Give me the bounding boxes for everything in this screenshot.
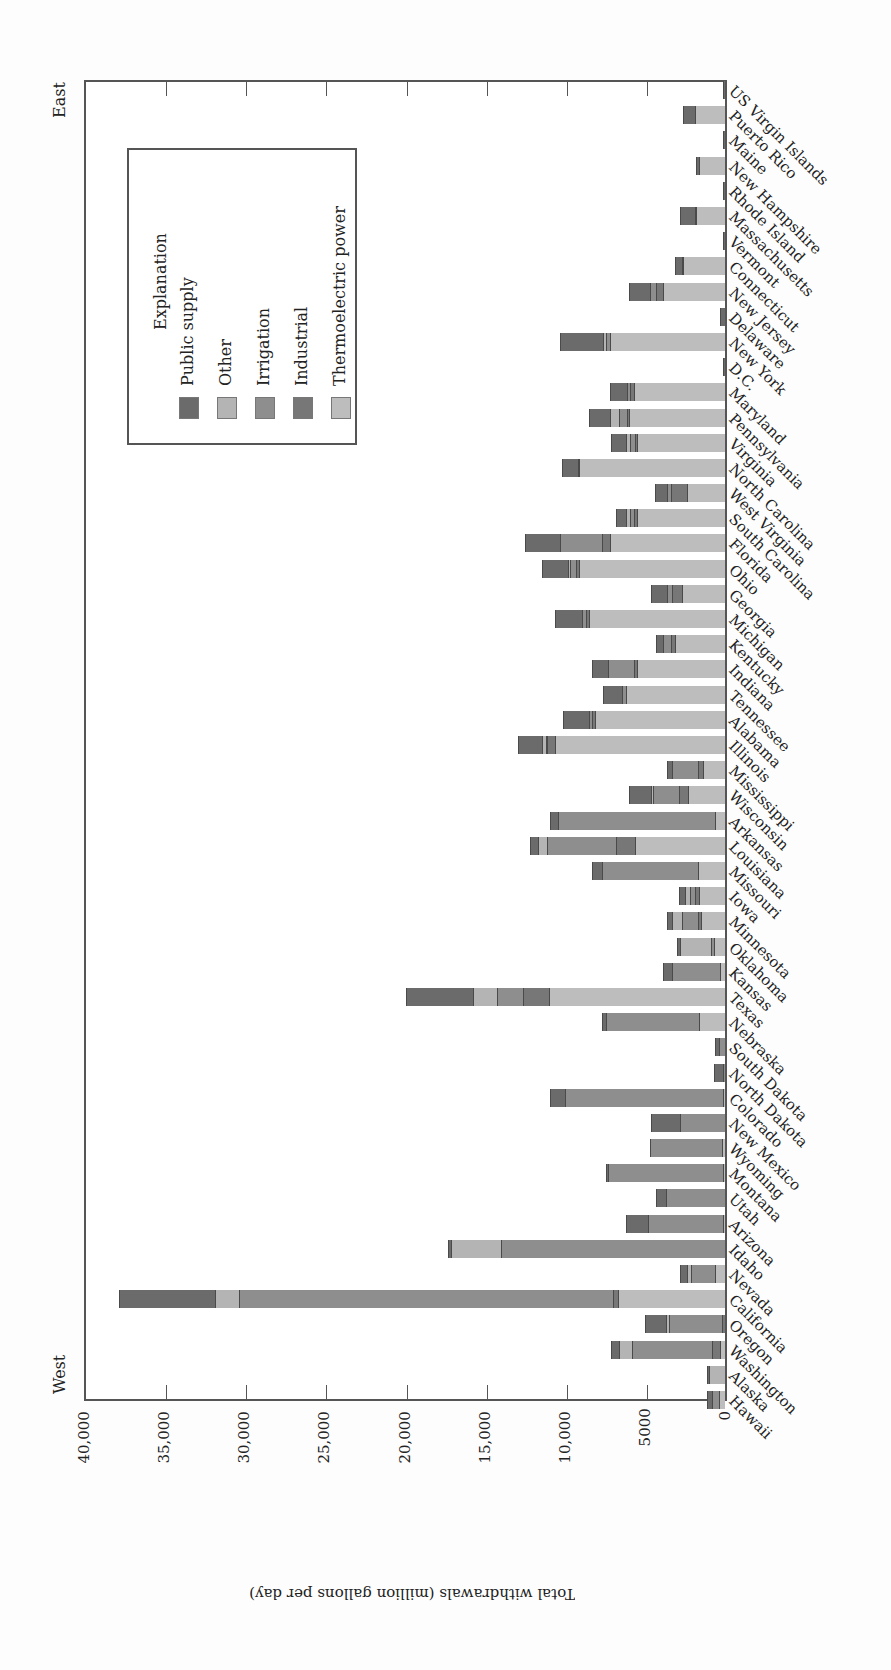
tick-mark (567, 1385, 568, 1399)
bar-segment-public-supply (563, 711, 589, 729)
bar-segment-public-supply (550, 1089, 564, 1107)
bar-segment-thermoelectric-power (723, 1089, 725, 1107)
tick-mark (647, 82, 648, 96)
tick-mark (246, 1385, 247, 1399)
bar-segment-public-supply (550, 812, 558, 830)
bar-segment-public-supply (406, 988, 473, 1006)
bar-virginia (611, 434, 725, 452)
bar-segment-irrigation (723, 1064, 725, 1082)
bar-segment-thermoelectric-power (714, 938, 725, 956)
bar-segment-thermoelectric-power (595, 711, 725, 729)
bar-segment-thermoelectric-power (698, 862, 725, 880)
bar-segment-irrigation (497, 988, 523, 1006)
bar-segment-industrial (602, 534, 610, 552)
tick-mark (487, 1385, 488, 1399)
bar-segment-public-supply (645, 1315, 666, 1333)
bar-utah (656, 1189, 725, 1207)
bar-segment-thermoelectric-power (629, 409, 725, 427)
tick-mark (407, 1385, 408, 1399)
tick-mark (487, 82, 488, 96)
bar-segment-industrial (672, 585, 682, 603)
bar-new-jersey (629, 283, 725, 301)
bar-segment-thermoelectric-power (637, 660, 725, 678)
bar-segment-public-supply (518, 736, 542, 754)
chart-stage: East West Total withdrawals (million gal… (0, 0, 891, 1670)
bar-alaska (707, 1366, 725, 1384)
bar-segment-thermoelectric-power (699, 1013, 725, 1031)
legend-label: Irrigation (254, 308, 273, 386)
tick-label: 40,000 (75, 1411, 93, 1464)
bar-segment-public-supply (525, 534, 560, 552)
bar-segment-thermoelectric-power (579, 560, 725, 578)
tick-label: 30,000 (235, 1411, 253, 1464)
bar-segment-thermoelectric-power (723, 1215, 725, 1233)
bar-segment-thermoelectric-power (701, 912, 725, 930)
bar-south-dakota (715, 1038, 725, 1056)
bar-segment-irrigation (666, 1189, 725, 1207)
bar-segment-industrial (671, 484, 687, 502)
bar-connecticut (675, 257, 725, 275)
bar-maryland (610, 383, 725, 401)
bar-segment-public-supply (723, 232, 725, 250)
legend-label: Other (216, 339, 235, 386)
tick-label: 25,000 (315, 1411, 333, 1464)
bar-segment-public-supply (530, 837, 538, 855)
bar-segment-thermoelectric-power (610, 534, 725, 552)
bar-segment-thermoelectric-power (687, 484, 725, 502)
east-label: East (50, 82, 69, 118)
bar-segment-thermoelectric-power (637, 509, 725, 527)
bar-segment-public-supply (683, 106, 694, 124)
bar-segment-thermoelectric-power (637, 434, 725, 452)
bar-segment-public-supply (714, 1064, 724, 1082)
bar-segment-thermoelectric-power (688, 786, 725, 804)
bar-north-carolina (562, 459, 725, 477)
bar-iowa (679, 887, 725, 905)
bar-segment-thermoelectric-power (695, 106, 725, 124)
bar-wisconsin (629, 786, 725, 804)
bar-new-hampshire (696, 157, 725, 175)
bar-segment-thermoelectric-power (715, 812, 725, 830)
bar-texas (406, 988, 725, 1006)
bar-segment-thermoelectric-power (682, 585, 725, 603)
bar-segment-public-supply (626, 1215, 648, 1233)
bar-segment-public-supply (555, 610, 582, 628)
bar-oklahoma (677, 938, 725, 956)
bar-segment-industrial (523, 988, 549, 1006)
bar-segment-irrigation (560, 534, 602, 552)
bar-arizona (626, 1215, 725, 1233)
tick-mark (647, 1385, 648, 1399)
bar-georgia (651, 585, 725, 603)
bar-segment-thermoelectric-power (549, 988, 725, 1006)
bar-segment-public-supply (611, 1341, 619, 1359)
bar-segment-irrigation (501, 1240, 725, 1258)
bar-new-york (560, 333, 725, 351)
bar-segment-public-supply (616, 509, 626, 527)
bar-missouri (592, 862, 725, 880)
bar-segment-thermoelectric-power (663, 283, 725, 301)
bar-minnesota (667, 912, 725, 930)
bar-segment-thermoelectric-power (703, 761, 725, 779)
bar-segment-public-supply (562, 459, 578, 477)
bar-washington (611, 1341, 725, 1359)
tick-label: 20,000 (396, 1411, 414, 1464)
bar-segment-thermoelectric-power (589, 610, 725, 628)
bar-segment-other (610, 409, 620, 427)
bar-segment-industrial (547, 736, 555, 754)
bar-segment-thermoelectric-power (720, 963, 725, 981)
bar-segment-public-supply (720, 308, 725, 326)
bar-segment-public-supply (611, 434, 625, 452)
bar-south-carolina (616, 509, 725, 527)
bar-delaware (720, 308, 725, 326)
legend: Explanation Public supplyOtherIrrigation… (127, 148, 357, 445)
bar-segment-other (215, 1290, 239, 1308)
bar-mississippi (667, 761, 725, 779)
bar-us-virgin-islands (723, 81, 725, 99)
bar-segment-public-supply (663, 963, 673, 981)
bar-oregon (645, 1315, 725, 1333)
bar-segment-thermoelectric-power (634, 383, 725, 401)
bar-segment-thermoelectric-power (618, 1290, 725, 1308)
bar-segment-public-supply (603, 686, 622, 704)
bar-segment-thermoelectric-power (723, 1164, 725, 1182)
bar-segment-other (538, 837, 548, 855)
bar-nevada (680, 1265, 725, 1283)
